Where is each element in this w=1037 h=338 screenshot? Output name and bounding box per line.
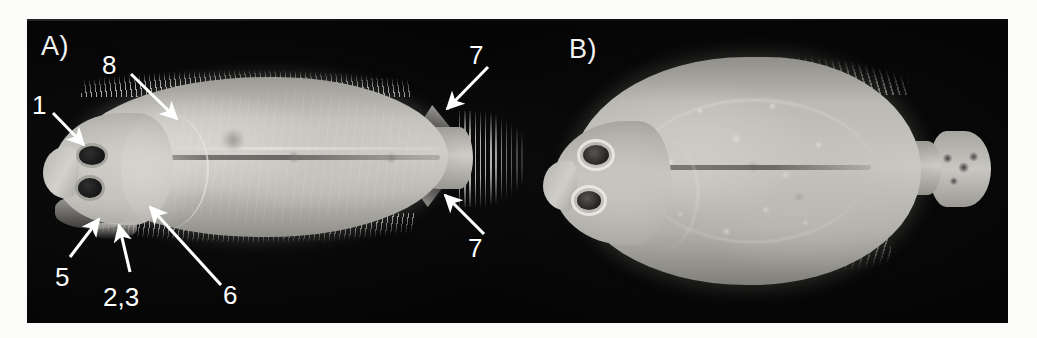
arrow-7-lower — [445, 195, 484, 234]
eye-upper-b — [577, 139, 615, 171]
annotation-arrows-a — [27, 19, 519, 323]
annotation-6: 6 — [223, 282, 237, 308]
annotation-7-lower: 7 — [468, 235, 482, 261]
annotation-1: 1 — [32, 92, 46, 118]
panel-a: A) — [27, 19, 519, 323]
arrow-7-upper — [447, 67, 488, 109]
eye-lower-b — [571, 185, 607, 216]
arrow-1 — [53, 113, 84, 145]
arrow-2-3 — [119, 225, 130, 272]
arrow-6 — [150, 207, 221, 285]
arrow-5 — [70, 219, 99, 257]
pupil-lower-b — [577, 191, 601, 210]
fish-specimen-b — [541, 43, 989, 299]
figure-root: A) — [0, 0, 1037, 338]
arrow-8 — [131, 74, 177, 119]
figure-plate: A) — [27, 19, 1008, 323]
pupil-upper-b — [583, 145, 609, 165]
annotation-2-3: 2,3 — [103, 284, 139, 310]
annotation-8: 8 — [102, 52, 116, 78]
panel-b: B) — [519, 19, 1008, 323]
annotation-5: 5 — [55, 264, 69, 290]
annotation-layer-a: 1 8 7 7 5 2,3 6 — [27, 19, 519, 323]
annotation-7-upper: 7 — [469, 42, 483, 68]
operculum-b — [617, 135, 699, 251]
